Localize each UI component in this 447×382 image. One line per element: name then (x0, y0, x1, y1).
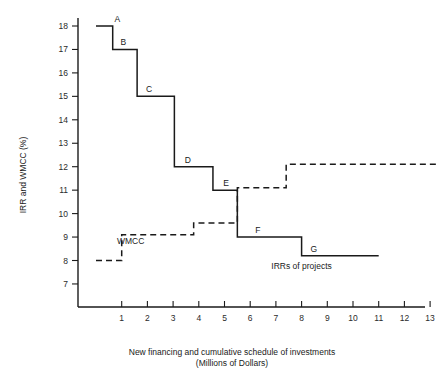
x-tick-label: 1 (119, 313, 124, 323)
point-label-c: C (146, 84, 152, 94)
x-tick-label: 5 (222, 313, 227, 323)
point-label-d: D (185, 155, 191, 165)
x-tick-label: 9 (325, 313, 330, 323)
y-tick-label: 14 (59, 115, 69, 125)
x-tick-label: 6 (248, 313, 253, 323)
y-tick-label: 7 (63, 279, 68, 289)
y-tick-label: 11 (59, 185, 68, 195)
y-tick-label: 8 (63, 256, 68, 266)
y-tick-label: 10 (59, 209, 69, 219)
x-tick-label: 8 (299, 313, 304, 323)
x-axis-title-line1: New financing and cumulative schedule of… (129, 347, 335, 357)
x-tick-label: 7 (274, 313, 279, 323)
x-tick-label: 2 (145, 313, 150, 323)
series-label-irrs: IRRs of projects (271, 261, 331, 271)
series-label-wmcc: WMCC (117, 236, 144, 246)
y-axis-title: IRR and WMCC (%) (18, 137, 28, 214)
x-tick-label: 12 (400, 313, 410, 323)
x-tick-label: 4 (196, 313, 201, 323)
x-tick-label: 3 (171, 313, 176, 323)
y-tick-label: 16 (59, 68, 69, 78)
y-tick-label: 15 (59, 91, 69, 101)
x-axis-title-line2: (Millions of Dollars) (196, 358, 268, 368)
point-label-b: B (120, 37, 126, 47)
point-label-g: G (311, 244, 318, 254)
y-tick-label: 17 (59, 44, 69, 54)
y-tick-label: 18 (59, 21, 69, 31)
y-tick-label: 13 (59, 138, 69, 148)
y-tick-label: 12 (59, 162, 69, 172)
point-label-e: E (223, 178, 229, 188)
point-label-f: F (255, 225, 260, 235)
y-tick-label: 9 (63, 232, 68, 242)
x-tick-label: 13 (425, 313, 435, 323)
chart-container: 789101112131415161718 12345678910111213 … (0, 0, 447, 382)
point-label-a: A (115, 14, 121, 24)
x-tick-label: 11 (374, 313, 383, 323)
x-tick-label: 10 (348, 313, 358, 323)
irr-wmcc-step-chart: 789101112131415161718 12345678910111213 … (0, 0, 447, 382)
